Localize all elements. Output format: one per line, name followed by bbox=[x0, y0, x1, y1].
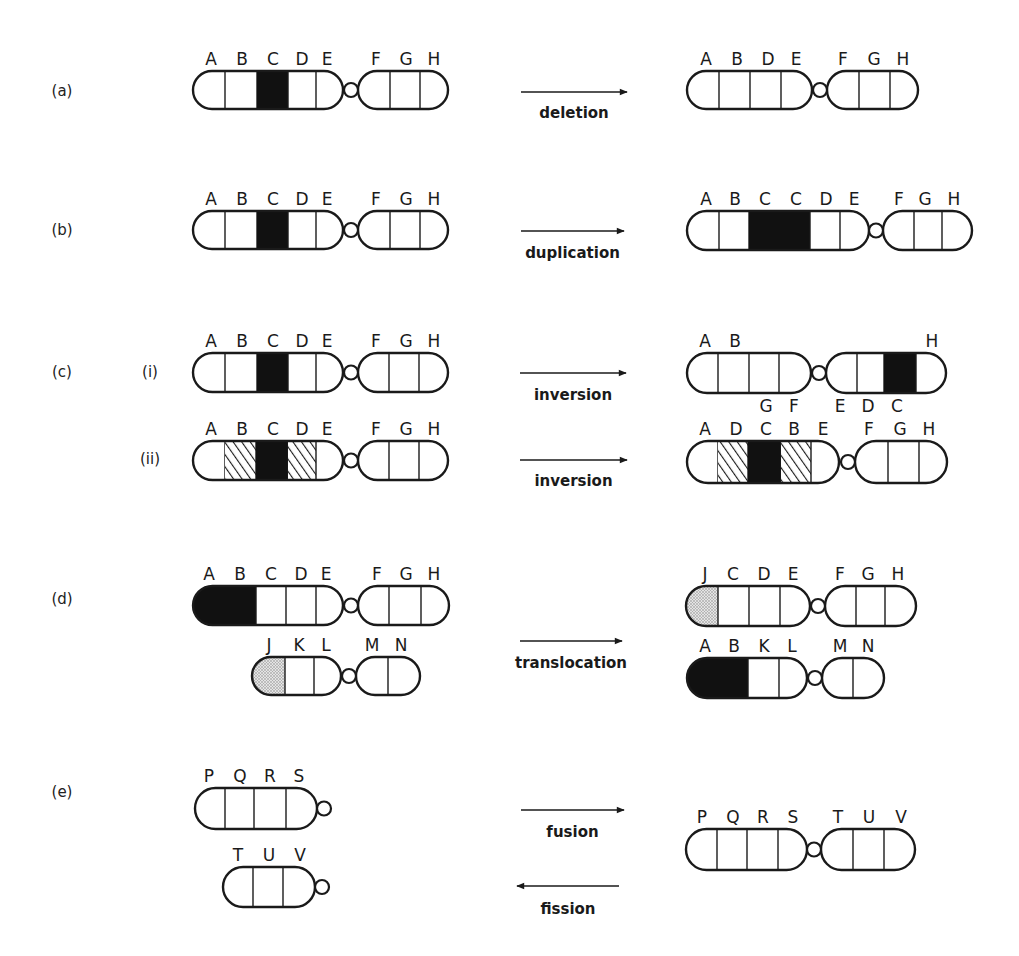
gene-label-C: C bbox=[790, 189, 802, 209]
gene-labels: PQRSTUV bbox=[697, 807, 907, 827]
row-label-e: (e) bbox=[52, 783, 73, 801]
band-dark bbox=[257, 70, 288, 110]
gene-label-E: E bbox=[835, 396, 846, 416]
centromere bbox=[317, 802, 331, 816]
gene-label-L: L bbox=[321, 635, 331, 655]
gene-label-G: G bbox=[918, 189, 931, 209]
gene-label-B: B bbox=[728, 636, 740, 656]
row-labels: (a)(b)(c)(i)(ii)(d)(e) bbox=[51, 82, 160, 801]
gene-label-F: F bbox=[864, 419, 874, 439]
gene-label-E: E bbox=[321, 564, 332, 584]
gene-label-U: U bbox=[263, 845, 275, 865]
chromosome-b-before: ABCDEFGH bbox=[193, 189, 448, 250]
gene-label-D: D bbox=[295, 331, 308, 351]
gene-label-H: H bbox=[923, 419, 936, 439]
arrow-label-duplication: duplication bbox=[525, 244, 620, 262]
gene-label-A: A bbox=[699, 331, 711, 351]
gene-label-G: G bbox=[399, 49, 412, 69]
arrow-label-fusion: fusion bbox=[546, 823, 598, 841]
gene-label-B: B bbox=[236, 331, 248, 351]
band-dark bbox=[884, 352, 916, 394]
band-hatch bbox=[718, 440, 748, 484]
gene-label-P: P bbox=[204, 766, 214, 786]
gene-labels: ABDEFGH bbox=[700, 49, 909, 69]
gene-label-E: E bbox=[322, 49, 333, 69]
gene-label-C: C bbox=[265, 564, 277, 584]
gene-label-B: B bbox=[234, 564, 246, 584]
gene-label-B: B bbox=[236, 49, 248, 69]
gene-label-R: R bbox=[757, 807, 769, 827]
gene-label-R: R bbox=[264, 766, 276, 786]
gene-labels: ABCDEFGH bbox=[205, 331, 440, 351]
gene-label-C: C bbox=[267, 331, 279, 351]
left-arm bbox=[195, 788, 317, 829]
gene-label-G: G bbox=[399, 419, 412, 439]
gene-label-J: J bbox=[701, 564, 707, 584]
band-dark bbox=[257, 210, 288, 250]
arrow-fission: fission bbox=[517, 886, 619, 918]
chromosome-a-before: ABCDEFGH bbox=[193, 49, 448, 110]
gene-label-D: D bbox=[295, 189, 308, 209]
centromere bbox=[342, 669, 356, 683]
band-dark bbox=[257, 352, 288, 393]
chromosome-d-before-1: ABCDEFGH bbox=[193, 564, 449, 626]
arrow-label-deletion: deletion bbox=[539, 104, 609, 122]
gene-labels: ABCDEFGH bbox=[205, 419, 440, 439]
gene-label-H: H bbox=[428, 564, 441, 584]
arrow-inversion-i: inversion bbox=[520, 373, 626, 404]
gene-labels: ABCDEFGH bbox=[203, 564, 440, 584]
gene-labels: ABCDEFGH bbox=[205, 189, 440, 209]
gene-label-F: F bbox=[789, 396, 799, 416]
gene-label-H: H bbox=[892, 564, 905, 584]
gene-label-S: S bbox=[294, 766, 305, 786]
gene-labels: ADCBEFGH bbox=[699, 419, 935, 439]
gene-label-V: V bbox=[895, 807, 907, 827]
gene-label-T: T bbox=[232, 845, 244, 865]
gene-label-A: A bbox=[205, 331, 217, 351]
gene-label-D: D bbox=[757, 564, 770, 584]
left-arm bbox=[687, 440, 839, 484]
centromere bbox=[869, 224, 883, 238]
arrow-deletion: deletion bbox=[521, 92, 627, 122]
gene-label-C: C bbox=[727, 564, 739, 584]
gene-label-K: K bbox=[758, 636, 770, 656]
gene-label-E: E bbox=[791, 49, 802, 69]
gene-label-B: B bbox=[729, 331, 741, 351]
gene-label-E: E bbox=[322, 419, 333, 439]
left-arm bbox=[687, 657, 807, 699]
gene-label-N: N bbox=[862, 636, 875, 656]
gene-label-F: F bbox=[371, 189, 381, 209]
gene-label-G: G bbox=[399, 331, 412, 351]
gene-label-K: K bbox=[293, 635, 305, 655]
gene-label-D: D bbox=[295, 419, 308, 439]
right-arm bbox=[358, 441, 448, 480]
gene-label-C: C bbox=[267, 49, 279, 69]
gene-label-B: B bbox=[731, 49, 743, 69]
gene-label-F: F bbox=[372, 564, 382, 584]
gene-label-B: B bbox=[729, 189, 741, 209]
gene-labels: JKLMN bbox=[265, 635, 407, 655]
left-arm bbox=[193, 440, 343, 481]
gene-label-H: H bbox=[428, 331, 441, 351]
left-arm bbox=[223, 867, 315, 907]
gene-label-F: F bbox=[838, 49, 848, 69]
band-dark bbox=[749, 210, 810, 251]
chromosome-e-before-2: TUV bbox=[223, 845, 329, 907]
centromere bbox=[344, 599, 358, 613]
centromere bbox=[315, 880, 329, 894]
chromosome-c-ii-after: ADCBEFGH bbox=[687, 419, 947, 484]
gene-label-M: M bbox=[833, 636, 848, 656]
gene-label-G: G bbox=[399, 564, 412, 584]
right-arm bbox=[356, 657, 420, 695]
centromere bbox=[344, 454, 358, 468]
gene-label-Q: Q bbox=[233, 766, 246, 786]
arrow-label-fission: fission bbox=[540, 900, 595, 918]
arrow-inversion-ii: inversion bbox=[520, 460, 627, 490]
right-arm bbox=[822, 658, 884, 698]
gene-label-C: C bbox=[759, 189, 771, 209]
right-arm bbox=[825, 586, 916, 626]
gene-label-A: A bbox=[203, 564, 215, 584]
gene-labels: TUV bbox=[232, 845, 306, 865]
gene-labels: ABCDEFGH bbox=[205, 49, 440, 69]
left-arm bbox=[686, 585, 810, 627]
